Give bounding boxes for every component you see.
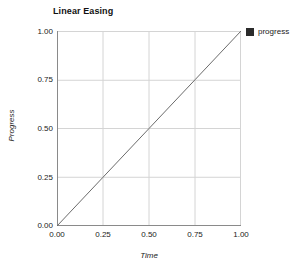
chart-title: Linear Easing: [53, 6, 113, 16]
x-tick-label: 0.00: [40, 230, 74, 239]
chart-legend: progress: [246, 27, 289, 36]
x-axis-title: Time: [57, 251, 241, 260]
plot-area: [57, 31, 241, 226]
x-tick-label: 0.75: [178, 230, 212, 239]
plot-svg: [57, 31, 241, 226]
x-tick-label: 0.25: [86, 230, 120, 239]
x-tick-label: 0.50: [132, 230, 166, 239]
legend-swatch-icon: [246, 28, 254, 36]
legend-item-label: progress: [258, 27, 289, 36]
chart-container: Linear Easing: [0, 0, 297, 270]
y-axis-title: Progress: [7, 101, 16, 151]
y-tick-label: 0.00: [37, 221, 53, 230]
y-tick-label: 0.25: [37, 173, 53, 182]
x-axis-tick-labels: 0.00 0.25 0.50 0.75 1.00: [57, 230, 241, 242]
x-tick-label: 1.00: [224, 230, 258, 239]
y-tick-label: 0.75: [37, 75, 53, 84]
y-axis-tick-labels: 1.00 0.75 0.50 0.25 0.00: [22, 31, 53, 226]
y-tick-label: 1.00: [37, 27, 53, 36]
y-tick-label: 0.50: [37, 124, 53, 133]
